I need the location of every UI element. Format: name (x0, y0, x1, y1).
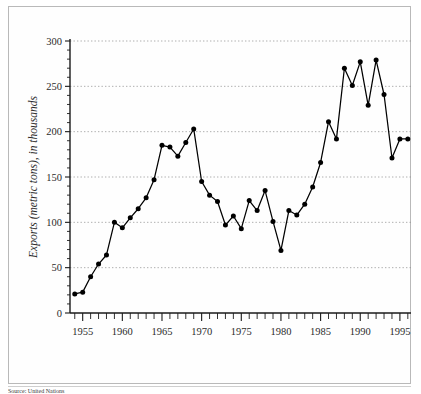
data-point-1987 (334, 136, 339, 141)
data-point-1966 (167, 145, 172, 150)
x-tick-label-1975: 1975 (231, 326, 252, 337)
x-tick-label-1990: 1990 (350, 326, 371, 337)
chart-svg: 050100150200250300 195519601965197019751… (0, 0, 421, 394)
data-point-1994 (389, 155, 394, 160)
data-point-1960 (120, 225, 125, 230)
data-point-1984 (310, 184, 315, 189)
data-point-1991 (366, 103, 371, 108)
data-point-1962 (136, 206, 141, 211)
y-tick-label-250: 250 (46, 81, 62, 92)
data-point-1980 (278, 248, 283, 253)
x-tick-label-1955: 1955 (72, 326, 93, 337)
data-point-1959 (112, 220, 117, 225)
data-point-1972 (215, 199, 220, 204)
x-axis-tick-labels-group: 195519601965197019751980198519901995 (72, 326, 410, 337)
data-point-1973 (223, 223, 228, 228)
y-axis-ticks-group (65, 41, 70, 313)
data-point-1990 (358, 59, 363, 64)
gridlines-group (70, 41, 411, 268)
y-axis-tick-labels-group: 050100150200250300 (46, 36, 62, 319)
data-point-1992 (374, 58, 379, 63)
data-point-1974 (231, 213, 236, 218)
data-point-1956 (88, 274, 93, 279)
y-tick-label-200: 200 (46, 126, 62, 137)
figure-caption: Source: United Nations (8, 386, 411, 394)
data-point-1978 (263, 188, 268, 193)
data-point-1976 (247, 198, 252, 203)
y-tick-label-0: 0 (57, 308, 62, 319)
data-point-1967 (175, 154, 180, 159)
x-tick-label-1995: 1995 (389, 326, 410, 337)
x-axis-ticks-group (75, 313, 408, 321)
y-tick-label-150: 150 (46, 172, 62, 183)
data-point-1957 (96, 262, 101, 267)
data-point-1970 (199, 179, 204, 184)
data-point-1963 (144, 195, 149, 200)
data-point-1965 (159, 143, 164, 148)
exports-line-chart: 050100150200250300 195519601965197019751… (0, 0, 421, 394)
x-tick-label-1980: 1980 (270, 326, 291, 337)
data-point-1958 (104, 252, 109, 257)
data-point-1996 (405, 136, 410, 141)
y-tick-label-50: 50 (52, 262, 63, 273)
y-tick-label-100: 100 (46, 217, 62, 228)
data-point-1983 (302, 202, 307, 207)
data-point-1982 (294, 213, 299, 218)
data-point-1981 (286, 208, 291, 213)
data-point-1964 (152, 177, 157, 182)
data-point-1968 (183, 140, 188, 145)
x-tick-label-1970: 1970 (191, 326, 212, 337)
data-point-1977 (255, 208, 260, 213)
data-point-1975 (239, 226, 244, 231)
x-tick-label-1965: 1965 (151, 326, 172, 337)
data-point-1986 (326, 119, 331, 124)
data-point-1979 (271, 219, 276, 224)
data-point-1954 (72, 291, 77, 296)
data-point-1961 (128, 215, 133, 220)
data-point-1985 (318, 160, 323, 165)
data-point-1971 (207, 193, 212, 198)
data-point-1993 (382, 92, 387, 97)
data-point-1969 (191, 126, 196, 131)
data-point-1989 (350, 83, 355, 88)
x-tick-label-1960: 1960 (112, 326, 133, 337)
data-point-1955 (80, 290, 85, 295)
y-axis-title: Exports (metric tons), in thousands (27, 96, 40, 259)
x-tick-label-1985: 1985 (310, 326, 331, 337)
data-point-1988 (342, 66, 347, 71)
data-point-1995 (397, 136, 402, 141)
y-tick-label-300: 300 (46, 36, 62, 47)
